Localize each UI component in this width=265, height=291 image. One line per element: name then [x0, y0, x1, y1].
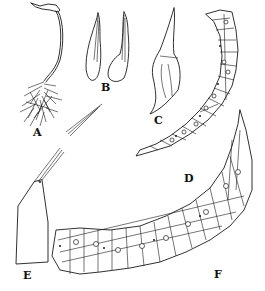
panel-a-drawing: [20, 3, 63, 126]
panel-label-e: E: [23, 270, 31, 281]
panel-label-f: F: [214, 269, 222, 280]
awn-lines: [66, 104, 102, 136]
figure-plate: A B C D E F: [0, 0, 265, 291]
panel-d-drawing: [136, 10, 238, 156]
panel-label-d: D: [184, 173, 194, 184]
line-drawing: [0, 0, 265, 291]
panel-label-a: A: [33, 127, 42, 138]
panel-b-drawing: [86, 12, 129, 81]
panel-e-drawing: [16, 148, 64, 264]
panel-f-drawing: [52, 110, 252, 274]
panel-c-drawing: [150, 8, 180, 114]
panel-label-b: B: [101, 82, 110, 93]
panel-label-c: C: [154, 115, 163, 126]
